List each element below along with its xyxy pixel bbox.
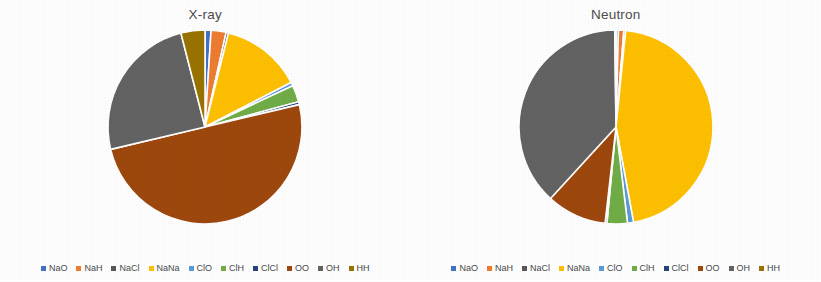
pie-wrap-neutron xyxy=(516,27,716,227)
legend-swatch-icon xyxy=(451,266,456,271)
legend-label: ClO xyxy=(607,263,623,274)
legend-label: ClH xyxy=(640,263,655,274)
legend-item-nana: NaNa xyxy=(149,263,180,274)
legend-label: ClCl xyxy=(672,263,689,274)
legend-swatch-icon xyxy=(522,266,527,271)
legend-item-oo: OO xyxy=(287,263,309,274)
legend-label: NaH xyxy=(495,263,513,274)
legend-swatch-icon xyxy=(487,266,492,271)
legend-item-clo: ClO xyxy=(599,263,623,274)
legend-label: HH xyxy=(357,263,370,274)
legend-label: HH xyxy=(767,263,780,274)
legend-swatch-icon xyxy=(318,266,323,271)
chart-title-neutron: Neutron xyxy=(591,7,640,23)
legend-swatch-icon xyxy=(349,266,354,271)
legend-item-nana: NaNa xyxy=(559,263,590,274)
pie-chart-xray xyxy=(105,27,305,227)
legend-neutron: NaONaHNaClNaNaClOClHClClOOOHHH xyxy=(411,258,821,282)
legend-label: NaNa xyxy=(157,263,180,274)
legend-item-clh: ClH xyxy=(221,263,244,274)
legend-item-nao: NaO xyxy=(451,263,478,274)
chart-panel-neutron: Neutron xyxy=(411,0,821,258)
legend-swatch-icon xyxy=(759,266,764,271)
legend-swatch-icon xyxy=(41,266,46,271)
legend-label: ClCl xyxy=(261,263,278,274)
legend-label: ClO xyxy=(197,263,213,274)
legend-item-hh: HH xyxy=(349,263,370,274)
legend-label: NaO xyxy=(459,263,478,274)
legend-item-oh: OH xyxy=(729,263,751,274)
legend-item-clh: ClH xyxy=(632,263,655,274)
legend-swatch-icon xyxy=(559,266,564,271)
legend-item-clcl: ClCl xyxy=(253,263,278,274)
legend-swatch-icon xyxy=(664,266,669,271)
legend-item-clcl: ClCl xyxy=(664,263,689,274)
legend-swatch-icon xyxy=(189,266,194,271)
chart-title-xray: X-ray xyxy=(189,7,222,23)
legend-swatch-icon xyxy=(253,266,258,271)
legend-label: NaNa xyxy=(567,263,590,274)
legend-item-nacl: NaCl xyxy=(522,263,550,274)
legend-swatch-icon xyxy=(287,266,292,271)
legend-label: OO xyxy=(706,263,720,274)
legend-label: OH xyxy=(737,263,751,274)
legend-item-hh: HH xyxy=(759,263,780,274)
chart-panels: X-ray Neutron xyxy=(0,0,821,258)
legend-label: OO xyxy=(295,263,309,274)
legend-item-nah: NaH xyxy=(487,263,513,274)
legend-label: NaO xyxy=(49,263,68,274)
legend-label: NaCl xyxy=(530,263,550,274)
legend-swatch-icon xyxy=(729,266,734,271)
legend-label: NaH xyxy=(84,263,102,274)
legend-row: NaONaHNaClNaNaClOClHClClOOOHHH NaONaHNaC… xyxy=(0,258,821,282)
legend-label: OH xyxy=(326,263,340,274)
legend-item-oo: OO xyxy=(698,263,720,274)
pie-wrap-xray xyxy=(105,27,305,227)
legend-swatch-icon xyxy=(76,266,81,271)
legend-swatch-icon xyxy=(599,266,604,271)
pie-chart-figure: X-ray Neutron NaONaHNaClNaNaClOClHClClOO… xyxy=(0,0,821,282)
legend-label: ClH xyxy=(229,263,244,274)
legend-swatch-icon xyxy=(698,266,703,271)
legend-swatch-icon xyxy=(632,266,637,271)
legend-item-oh: OH xyxy=(318,263,340,274)
legend-xray: NaONaHNaClNaNaClOClHClClOOOHHH xyxy=(0,258,411,282)
legend-swatch-icon xyxy=(149,266,154,271)
pie-chart-neutron xyxy=(516,27,716,227)
legend-item-clo: ClO xyxy=(189,263,213,274)
pie-slice-nana xyxy=(616,30,713,222)
legend-label: NaCl xyxy=(119,263,139,274)
legend-item-nao: NaO xyxy=(41,263,68,274)
legend-swatch-icon xyxy=(221,266,226,271)
legend-swatch-icon xyxy=(111,266,116,271)
chart-panel-xray: X-ray xyxy=(0,0,411,258)
legend-item-nacl: NaCl xyxy=(111,263,139,274)
legend-item-nah: NaH xyxy=(76,263,102,274)
